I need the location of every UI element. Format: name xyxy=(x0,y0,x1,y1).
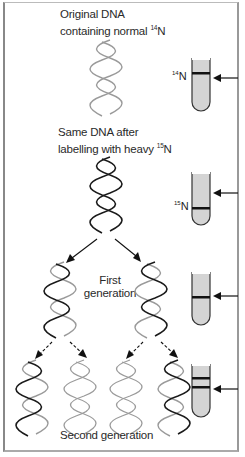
replication-arrows-second xyxy=(30,340,190,362)
dna-helix-second-gen-3 xyxy=(112,360,142,440)
arrow-icon xyxy=(213,291,239,301)
dna-helix-second-gen-2 xyxy=(66,360,96,440)
isotope-symbol: N xyxy=(157,25,165,37)
centrifuge-tube-first-gen xyxy=(190,272,212,326)
band-hybrid xyxy=(192,386,210,389)
band-light xyxy=(192,72,210,75)
isotope-mass: 14 xyxy=(172,70,179,76)
centrifuge-tube-original xyxy=(190,58,212,112)
caption-original: Original DNA containing normal 14N xyxy=(60,8,165,38)
caption-line: Original DNA xyxy=(60,8,165,21)
centrifuge-tube-second-gen xyxy=(190,364,212,418)
isotope-mass: 15 xyxy=(157,142,164,149)
caption-text: labelling with heavy xyxy=(58,143,157,155)
caption-second-generation: Second generation xyxy=(60,429,153,442)
caption-line: containing normal 14N xyxy=(60,21,165,38)
isotope-symbol: N xyxy=(181,200,189,212)
tube-label-labelled: 15N xyxy=(174,200,189,212)
dna-helix-second-gen-1 xyxy=(18,360,48,440)
isotope-symbol: N xyxy=(179,70,187,82)
band-hybrid xyxy=(192,296,210,299)
tube-label-original: 14N xyxy=(172,70,187,82)
caption-first-generation: First generation xyxy=(80,274,140,300)
caption-labelled: Same DNA after labelling with heavy 15N xyxy=(58,126,172,156)
dna-helix-second-gen-4 xyxy=(160,360,190,440)
centrifuge-tube-labelled xyxy=(190,172,212,226)
caption-line: generation xyxy=(80,287,140,300)
isotope-mass: 15 xyxy=(174,200,181,206)
arrow-icon xyxy=(213,384,239,394)
dna-helix-first-gen-right xyxy=(137,262,167,342)
caption-line: Same DNA after xyxy=(58,126,172,139)
caption-line: labelling with heavy 15N xyxy=(58,139,172,156)
arrow-icon xyxy=(213,73,239,83)
isotope-symbol: N xyxy=(164,143,172,155)
caption-text: containing normal xyxy=(60,25,150,37)
arrow-icon xyxy=(213,188,239,198)
band-heavy xyxy=(192,207,210,210)
dna-helix-original xyxy=(92,40,122,120)
dna-helix-first-gen-left xyxy=(46,262,76,342)
caption-line: First xyxy=(80,274,140,287)
dna-helix-labelled xyxy=(92,157,122,237)
band-light xyxy=(192,377,210,380)
